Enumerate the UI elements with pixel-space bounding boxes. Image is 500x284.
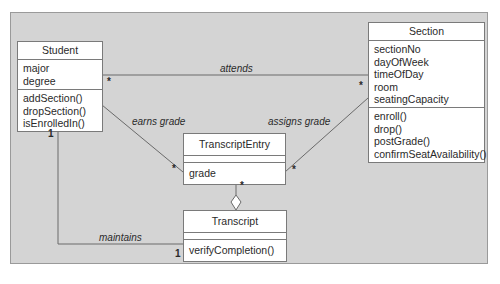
class-transcript-entry[interactable]: TranscriptEntry grade bbox=[183, 133, 286, 185]
attributes-compartment: major degree bbox=[18, 60, 102, 90]
class-student[interactable]: Student major degree addSection() dropSe… bbox=[17, 41, 103, 132]
attribute: room bbox=[374, 81, 479, 93]
class-name: Transcript bbox=[184, 211, 286, 233]
aggregation-diamond-icon bbox=[231, 195, 241, 210]
operations-compartment: addSection() dropSection() isEnrolledIn(… bbox=[18, 90, 102, 131]
class-section[interactable]: Section sectionNo dayOfWeek timeOfDay ro… bbox=[368, 22, 485, 163]
attributes-compartment: sectionNo dayOfWeek timeOfDay room seati… bbox=[369, 41, 484, 108]
maintains-student-multiplicity: 1 bbox=[48, 128, 54, 139]
operation: grade bbox=[189, 167, 280, 179]
attends-section-multiplicity: * bbox=[359, 80, 363, 91]
assigns-grade-multiplicity: * bbox=[292, 164, 296, 175]
maintains-line bbox=[58, 127, 183, 244]
class-name: Section bbox=[369, 23, 484, 41]
operation: confirmSeatAvailability() bbox=[374, 148, 479, 160]
attribute: degree bbox=[23, 75, 97, 87]
aggregation-part-multiplicity: * bbox=[240, 180, 244, 191]
maintains-label: maintains bbox=[99, 232, 142, 243]
operations-compartment: enroll() drop() postGrade() confirmSeatA… bbox=[369, 108, 484, 162]
operation: dropSection() bbox=[23, 105, 97, 117]
class-name: TranscriptEntry bbox=[184, 134, 285, 156]
attends-label: attends bbox=[220, 63, 253, 74]
operations-compartment: verifyCompletion() bbox=[184, 240, 286, 260]
earns-grade-multiplicity: * bbox=[172, 163, 176, 174]
operation: drop() bbox=[374, 123, 479, 135]
maintains-transcript-multiplicity: 1 bbox=[175, 248, 181, 259]
assigns-grade-label: assigns grade bbox=[268, 116, 330, 127]
attribute: timeOfDay bbox=[374, 68, 479, 80]
attributes-compartment bbox=[184, 156, 285, 163]
operation: addSection() bbox=[23, 92, 97, 104]
operation: verifyCompletion() bbox=[189, 244, 281, 256]
class-name: Student bbox=[18, 42, 102, 60]
attribute: seatingCapacity bbox=[374, 93, 479, 105]
operations-compartment: grade bbox=[184, 163, 285, 183]
attribute: dayOfWeek bbox=[374, 56, 479, 68]
attribute: major bbox=[23, 62, 97, 74]
operation: isEnrolledIn() bbox=[23, 117, 97, 129]
attributes-compartment bbox=[184, 233, 286, 240]
operation: postGrade() bbox=[374, 135, 479, 147]
attends-student-multiplicity: * bbox=[107, 76, 111, 87]
class-transcript[interactable]: Transcript verifyCompletion() bbox=[183, 210, 287, 262]
assigns-grade-line bbox=[285, 98, 368, 172]
operation: enroll() bbox=[374, 110, 479, 122]
earns-grade-label: earns grade bbox=[132, 116, 185, 127]
attribute: sectionNo bbox=[374, 43, 479, 55]
